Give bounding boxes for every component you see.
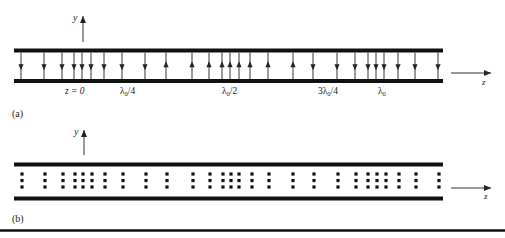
field-line-down-arrow-icon (41, 53, 46, 80)
field-line-down-arrow-icon (435, 53, 440, 80)
position-label: λ0/2 (222, 86, 237, 97)
field-line-down-arrow-icon (381, 53, 386, 80)
charge-column (414, 172, 417, 188)
charge-column (121, 172, 124, 188)
field-line-down-arrow-icon (352, 53, 357, 80)
field-line-up-arrow-icon (219, 53, 224, 80)
charge-column (208, 172, 211, 188)
position-label: z = 0 (64, 86, 85, 96)
charge-column (61, 172, 64, 188)
field-line-up-arrow-icon (236, 53, 241, 80)
z-axis-label: z (483, 191, 488, 201)
charge-column (90, 172, 93, 188)
field-line-down-arrow-icon (310, 53, 315, 80)
field-line-down-arrow-icon (373, 53, 378, 80)
charge-column (397, 172, 400, 188)
field-line-down-arrow-icon (88, 53, 93, 80)
charge-column (221, 172, 224, 188)
charge-column (81, 172, 84, 188)
charge-column (20, 172, 23, 188)
charge-column (229, 172, 232, 188)
field-line-down-arrow-icon (119, 53, 124, 80)
charge-column (191, 172, 194, 188)
panel-b-label: (b) (12, 213, 24, 225)
position-label: λ0/4 (120, 86, 135, 97)
charge-column (267, 172, 270, 188)
field-line-down-arrow-icon (412, 53, 417, 80)
charge-column (437, 172, 440, 188)
charge-column (43, 172, 46, 188)
field-line-up-arrow-icon (247, 53, 252, 80)
field-line-down-arrow-icon (59, 53, 64, 80)
charge-column (366, 172, 369, 188)
field-line-down-arrow-icon (365, 53, 370, 80)
y-axis-label: y (72, 12, 78, 23)
charge-column (237, 172, 240, 188)
panel-a-label: (a) (12, 108, 23, 120)
position-label: λ0 (378, 86, 386, 97)
charge-column (336, 172, 339, 188)
field-line-down-arrow-icon (79, 53, 84, 80)
charge-distribution-dots (20, 172, 440, 188)
electric-field-lines (18, 53, 440, 80)
field-line-down-arrow-icon (71, 53, 76, 80)
field-line-up-arrow-icon (206, 53, 211, 80)
field-line-down-arrow-icon (142, 53, 147, 80)
charge-column (384, 172, 387, 188)
charge-column (144, 172, 147, 188)
field-line-up-arrow-icon (265, 53, 270, 80)
charge-column (165, 172, 168, 188)
field-line-down-arrow-icon (18, 53, 23, 80)
panel-b: y z (b) (12, 126, 491, 225)
field-line-up-arrow-icon (290, 53, 295, 80)
position-labels: z = 0λ0/4λ0/23λ0/4λ0 (64, 86, 386, 97)
z-axis-label: z (481, 77, 486, 87)
panel-a-z-axis: z (451, 73, 491, 87)
charge-column (103, 172, 106, 188)
panel-a: y z z = 0λ0/4λ0/23λ0/4λ0 (a) (12, 12, 491, 120)
panel-b-y-axis: y (73, 126, 84, 155)
field-line-down-arrow-icon (395, 53, 400, 80)
charge-column (250, 172, 253, 188)
field-line-down-arrow-icon (101, 53, 106, 80)
field-line-down-arrow-icon (334, 53, 339, 80)
field-line-up-arrow-icon (163, 53, 168, 80)
charge-column (375, 172, 378, 188)
charge-column (354, 172, 357, 188)
field-line-up-arrow-icon (227, 53, 232, 80)
charge-column (73, 172, 76, 188)
charge-column (312, 172, 315, 188)
charge-column (291, 172, 294, 188)
field-line-up-arrow-icon (189, 53, 194, 80)
position-label: 3λ0/4 (318, 86, 338, 97)
panel-a-y-axis: y (72, 12, 83, 42)
y-axis-label: y (73, 126, 79, 137)
waveguide-field-figure: y z z = 0λ0/4λ0/23λ0/4λ0 (a) y z (b) (0, 0, 505, 238)
panel-b-z-axis: z (451, 188, 491, 201)
